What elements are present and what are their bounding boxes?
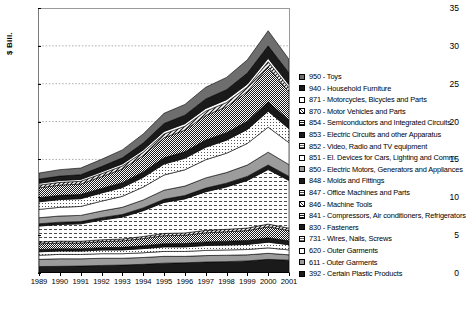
y-axis-tick-label: 35	[425, 4, 459, 12]
legend-swatch-icon	[299, 248, 305, 254]
legend-label: 731 - Wires, Nails, Screws	[309, 233, 392, 245]
y-axis-tick-mark	[38, 122, 41, 123]
x-axis-tick-mark	[227, 273, 228, 276]
legend-swatch-icon	[299, 74, 305, 80]
legend-item[interactable]: 392 - Certain Plastic Products	[299, 268, 457, 280]
legend-item[interactable]: 841 - Compressors, Air conditioners, Ref…	[299, 210, 457, 222]
legend-item[interactable]: 940 - Household Furniture	[299, 83, 457, 95]
x-axis-tick-mark	[247, 273, 248, 276]
y-axis-tick-mark	[38, 8, 41, 9]
legend-label: 846 - Machine Tools	[309, 199, 372, 211]
x-axis-tick-mark	[268, 273, 269, 276]
x-axis-tick-mark	[289, 273, 290, 276]
legend-item[interactable]: 870 - Motor Vehicles and Parts	[299, 106, 457, 118]
y-axis-tick-mark	[38, 46, 41, 47]
legend-swatch-icon	[299, 155, 305, 161]
x-axis-tick-mark	[39, 273, 40, 276]
y-axis-tick-mark	[38, 84, 41, 85]
legend-swatch-icon	[299, 166, 305, 172]
legend-swatch-icon	[299, 120, 305, 126]
y-axis-tick-mark	[38, 235, 41, 236]
legend-item[interactable]: 830 - Fasteners	[299, 222, 457, 234]
legend: 950 - Toys940 - Household Furniture871 -…	[299, 71, 457, 280]
legend-label: 841 - Compressors, Air conditioners, Ref…	[309, 210, 466, 222]
legend-label: 854 - Semiconductors and Integrated Circ…	[309, 117, 451, 129]
legend-label: 830 - Fasteners	[309, 222, 359, 234]
legend-label: 392 - Certain Plastic Products	[309, 268, 402, 280]
legend-swatch-icon	[299, 143, 305, 149]
legend-label: 850 - Electric Motors, Generators and Ap…	[309, 164, 463, 176]
x-axis-tick-mark	[206, 273, 207, 276]
x-axis-tick-mark	[81, 273, 82, 276]
y-axis-tick-mark	[38, 159, 41, 160]
x-axis-tick-mark	[102, 273, 103, 276]
legend-swatch-icon	[299, 132, 305, 138]
legend-swatch-icon	[299, 190, 305, 196]
x-axis-tick-mark	[185, 273, 186, 276]
legend-item[interactable]: 620 - Outer Garments	[299, 245, 457, 257]
legend-label: 851 - El. Devices for Cars, Lighting and…	[309, 152, 457, 164]
legend-label: 620 - Outer Garments	[309, 245, 378, 257]
y-axis-tick-label: 30	[425, 42, 459, 50]
legend-item[interactable]: 852 - Video, Radio and TV equipment	[299, 141, 457, 153]
legend-swatch-icon	[299, 224, 305, 230]
x-axis-tick-mark	[122, 273, 123, 276]
legend-item[interactable]: 950 - Toys	[299, 71, 457, 83]
legend-item[interactable]: 846 - Machine Tools	[299, 199, 457, 211]
legend-swatch-icon	[299, 271, 305, 277]
legend-swatch-icon	[299, 178, 305, 184]
legend-label: 848 - Molds and Fittings	[309, 175, 384, 187]
legend-item[interactable]: 848 - Molds and Fittings	[299, 175, 457, 187]
legend-label: 950 - Toys	[309, 71, 341, 83]
x-axis-tick-mark	[164, 273, 165, 276]
legend-item[interactable]: 731 - Wires, Nails, Screws	[299, 233, 457, 245]
legend-item[interactable]: 851 - El. Devices for Cars, Lighting and…	[299, 152, 457, 164]
legend-swatch-icon	[299, 97, 305, 103]
legend-swatch-icon	[299, 85, 305, 91]
legend-label: 940 - Household Furniture	[309, 83, 391, 95]
legend-item[interactable]: 871 - Motorcycles, Bicycles and Parts	[299, 94, 457, 106]
legend-item[interactable]: 854 - Semiconductors and Integrated Circ…	[299, 117, 457, 129]
legend-swatch-icon	[299, 108, 305, 114]
legend-item[interactable]: 847 - Office Machines and Parts	[299, 187, 457, 199]
legend-label: 870 - Motor Vehicles and Parts	[309, 106, 406, 118]
legend-swatch-icon	[299, 236, 305, 242]
legend-label: 852 - Video, Radio and TV equipment	[309, 141, 427, 153]
legend-swatch-icon	[299, 259, 305, 265]
legend-item[interactable]: 611 - Outer Garments	[299, 257, 457, 269]
legend-label: 853 - Electric Circuits and other Appara…	[309, 129, 441, 141]
legend-swatch-icon	[299, 213, 305, 219]
legend-swatch-icon	[299, 201, 305, 207]
legend-label: 611 - Outer Garments	[309, 257, 377, 269]
legend-item[interactable]: 853 - Electric Circuits and other Appara…	[299, 129, 457, 141]
legend-item[interactable]: 850 - Electric Motors, Generators and Ap…	[299, 164, 457, 176]
y-axis-tick-mark	[38, 197, 41, 198]
legend-label: 871 - Motorcycles, Bicycles and Parts	[309, 94, 427, 106]
x-axis-tick-mark	[143, 273, 144, 276]
x-axis-tick-mark	[60, 273, 61, 276]
legend-label: 847 - Office Machines and Parts	[309, 187, 410, 199]
